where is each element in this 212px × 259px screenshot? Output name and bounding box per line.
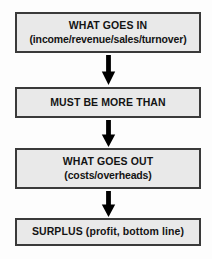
flowchart-node-result: SURPLUS (profit, bottom line) [15, 218, 201, 246]
node-output-title: WHAT GOES OUT [63, 156, 153, 167]
node-input-title: WHAT GOES IN [69, 20, 148, 31]
flowchart-node-output: WHAT GOES OUT (costs/overheads) [15, 148, 201, 189]
flowchart-diagram: WHAT GOES IN (income/revenue/sales/turno… [0, 0, 212, 259]
node-input-subtitle: (income/revenue/sales/turnover) [30, 34, 187, 45]
node-rule-title: MUST BE MORE THAN [50, 97, 165, 108]
node-result-title: SURPLUS (profit, bottom line) [32, 226, 184, 237]
arrow-down-icon [98, 120, 119, 147]
flowchart-node-rule: MUST BE MORE THAN [15, 87, 201, 118]
arrow-down-icon [98, 191, 119, 217]
arrow-down-icon [98, 55, 119, 85]
node-output-subtitle: (costs/overheads) [64, 170, 151, 181]
flowchart-node-input: WHAT GOES IN (income/revenue/sales/turno… [15, 12, 201, 53]
